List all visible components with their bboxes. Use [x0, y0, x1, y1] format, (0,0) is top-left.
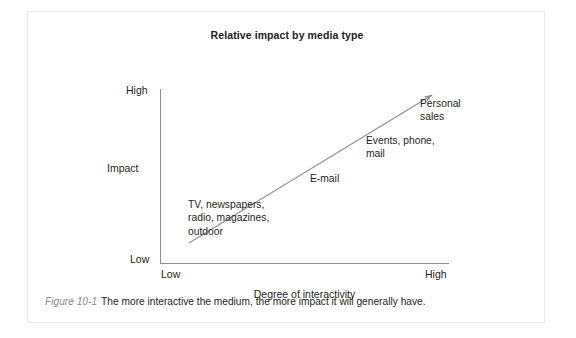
plot-area: High Low Impact Low High Degree of inter…	[28, 12, 546, 324]
figure-caption-text: The more interactive the medium, the mor…	[101, 296, 425, 307]
figure-caption-number: Figure 10-1	[45, 296, 97, 307]
annotation-email: E-mail	[310, 172, 339, 185]
annotation-personal-sales: Personal sales	[420, 97, 461, 124]
figure-card: Relative impact by media type High Low I…	[27, 11, 545, 323]
annotation-events-phone-mail: Events, phone, mail	[366, 134, 435, 161]
annotation-traditional-media: TV, newspapers, radio, magazines, outdoo…	[188, 198, 269, 238]
figure-caption: Figure 10-1The more interactive the medi…	[45, 296, 535, 307]
trend-arrow	[28, 12, 546, 324]
